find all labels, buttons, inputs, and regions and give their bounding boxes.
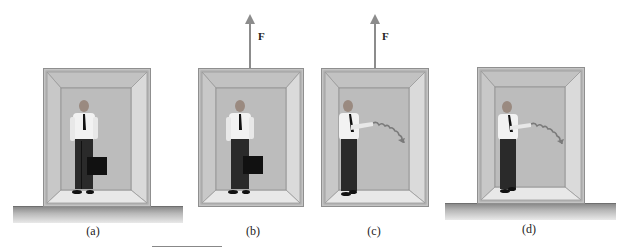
- panel-label-b: (b): [238, 224, 268, 239]
- ground-slab-a: [13, 206, 183, 223]
- briefcase-icon-a: [87, 157, 107, 175]
- force-arrow-icon-b: [244, 14, 256, 70]
- elevator-panel-c: [321, 68, 429, 207]
- panel-label-d: (d): [514, 222, 544, 237]
- force-arrow-icon-c: [369, 14, 381, 70]
- force-label-b: F: [258, 30, 265, 42]
- panel-label-a: (a): [78, 224, 108, 239]
- divider-line: [152, 246, 222, 247]
- force-label-c: F: [382, 30, 389, 42]
- elevator-panel-a: [43, 68, 151, 207]
- panel-label-c: (c): [359, 224, 389, 239]
- ground-slab-d: [445, 203, 616, 220]
- elevator-panel-b: [198, 68, 304, 207]
- briefcase-icon-b: [243, 156, 263, 174]
- elevator-panel-d: [477, 67, 585, 204]
